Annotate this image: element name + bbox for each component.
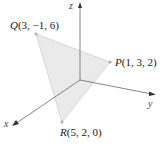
z-axis-label: z xyxy=(69,1,73,11)
point-p-marker xyxy=(108,60,111,63)
point-q-label: Q(3, −1, 6) xyxy=(10,20,59,31)
point-q-marker xyxy=(34,32,37,35)
z-arrow-icon xyxy=(78,2,82,8)
y-arrow-icon xyxy=(149,92,156,97)
y-axis xyxy=(80,80,152,94)
x-axis-label: x xyxy=(4,119,8,129)
triangle-pqr xyxy=(36,34,110,122)
y-axis-label: y xyxy=(148,99,152,109)
x-arrow-icon xyxy=(12,120,19,126)
point-p-label: P(1, 3, 2) xyxy=(115,57,157,68)
point-r-marker xyxy=(60,120,63,123)
point-r-label: R(5, 2, 0) xyxy=(60,127,102,138)
